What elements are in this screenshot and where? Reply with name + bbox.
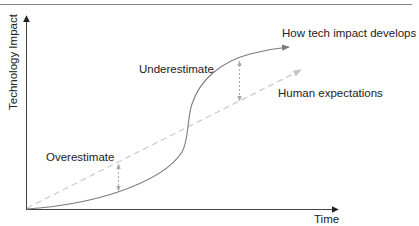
x-axis-label: Time: [314, 214, 339, 226]
tech-impact-label: How tech impact develops: [282, 28, 416, 40]
expectations-label: Human expectations: [278, 88, 383, 100]
expectations-line: [27, 70, 301, 208]
underestimate-label: Underestimate: [139, 64, 214, 76]
y-axis-label: Technology Impact: [8, 14, 20, 110]
overestimate-label: Overestimate: [46, 152, 114, 164]
diagram-canvas: Technology Impact Time How tech impact d…: [0, 0, 419, 226]
